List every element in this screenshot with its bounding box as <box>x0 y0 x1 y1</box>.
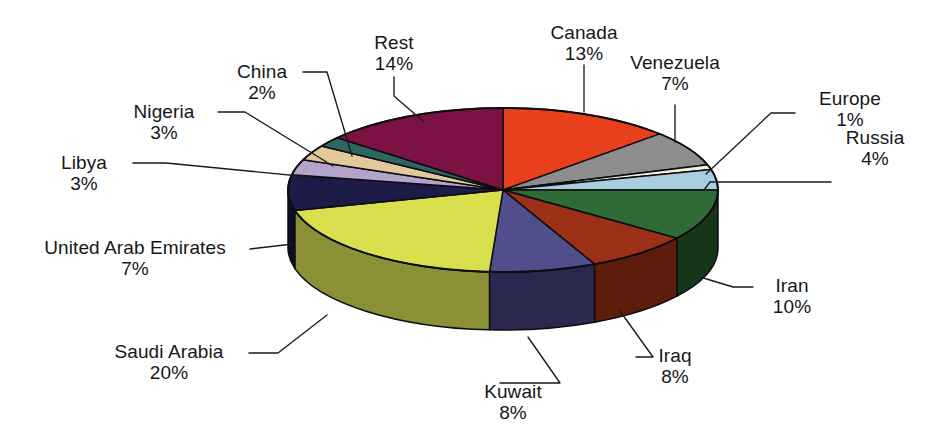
callout-uae-pct: 7% <box>20 258 250 279</box>
callout-saudi-arabia-pct: 20% <box>89 362 249 383</box>
callout-iran-pct: 10% <box>744 296 840 317</box>
leader-line-rest <box>394 77 424 122</box>
callout-nigeria-name: Nigeria <box>110 101 218 122</box>
callout-china-pct: 2% <box>221 82 303 103</box>
callout-europe-name: Europe <box>790 88 910 109</box>
leader-line-china <box>303 72 352 156</box>
callout-europe: Europe 1% <box>790 88 910 130</box>
callout-russia-pct: 4% <box>820 148 930 169</box>
callout-libya-pct: 3% <box>35 173 133 194</box>
callout-rest: Rest 14% <box>318 32 470 74</box>
callout-iran-name: Iran <box>744 275 840 296</box>
callout-iraq: Iraq 8% <box>627 345 723 387</box>
callout-venezuela-name: Venezuela <box>600 52 750 73</box>
callout-china: China 2% <box>221 61 303 103</box>
callout-uae-name: United Arab Emirates <box>20 237 250 258</box>
callout-iraq-name: Iraq <box>627 345 723 366</box>
callout-venezuela-pct: 7% <box>600 73 750 94</box>
callout-kuwait: Kuwait 8% <box>448 381 578 423</box>
callout-kuwait-name: Kuwait <box>448 381 578 402</box>
leader-line-russia <box>704 182 831 190</box>
callout-united-arab-emirates: United Arab Emirates 7% <box>20 237 250 279</box>
callout-venezuela: Venezuela 7% <box>600 52 750 94</box>
leader-line-nigeria <box>218 112 333 166</box>
callout-nigeria-pct: 3% <box>110 122 218 143</box>
callout-russia: Russia 4% <box>820 127 930 169</box>
leader-line-saudi <box>249 315 327 353</box>
callout-iraq-pct: 8% <box>627 366 723 387</box>
leader-line-uae <box>250 244 293 249</box>
callout-canada-name: Canada <box>509 22 659 43</box>
callout-nigeria: Nigeria 3% <box>110 101 218 143</box>
callout-saudi-arabia: Saudi Arabia 20% <box>89 341 249 383</box>
callout-kuwait-pct: 8% <box>448 402 578 423</box>
callout-russia-name: Russia <box>820 127 930 148</box>
callout-libya-name: Libya <box>35 152 133 173</box>
leader-line-europe <box>706 113 795 174</box>
callout-saudi-arabia-name: Saudi Arabia <box>89 341 249 362</box>
callout-rest-pct: 14% <box>318 53 470 74</box>
callout-rest-name: Rest <box>318 32 470 53</box>
leader-line-kuwait <box>500 337 560 383</box>
callout-china-name: China <box>221 61 303 82</box>
leader-line-libya <box>133 163 310 177</box>
callout-iran: Iran 10% <box>744 275 840 317</box>
callout-libya: Libya 3% <box>35 152 133 194</box>
pie-chart-figure: Rest 14% Canada 13% Venezuela 7% Europe … <box>0 0 940 443</box>
